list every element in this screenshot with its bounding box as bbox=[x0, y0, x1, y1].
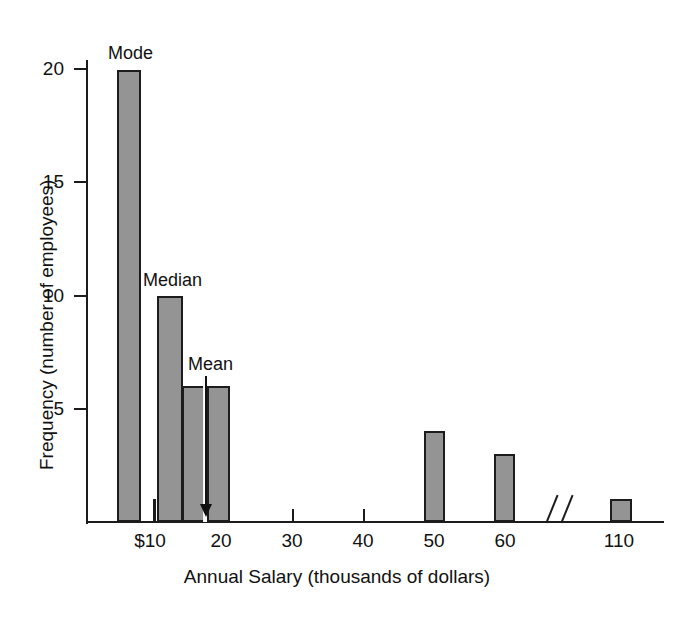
bar-fourth bbox=[207, 386, 230, 522]
x-tick-label-20: 20 bbox=[191, 530, 251, 552]
x-tick-label-40: 40 bbox=[333, 530, 393, 552]
axis-break-slash-2 bbox=[560, 495, 573, 524]
x-tick-label-50: 50 bbox=[404, 530, 464, 552]
y-tick-label-20: 20 bbox=[34, 59, 64, 78]
x-axis-title: Annual Salary (thousands of dollars) bbox=[0, 566, 674, 588]
y-tick-20 bbox=[74, 68, 86, 70]
annotation-median-label: Median bbox=[143, 270, 202, 290]
annotation-mode-label: Mode bbox=[108, 43, 153, 63]
bar-median bbox=[157, 296, 183, 522]
y-axis-title: Frequency (number of employees) bbox=[36, 180, 58, 470]
x-tick-label-10: $10 bbox=[120, 530, 180, 552]
annotation-mean-label: Mean bbox=[188, 354, 233, 374]
x-tick-label-110: 110 bbox=[589, 530, 649, 552]
x-tick-40 bbox=[363, 509, 365, 521]
salary-histogram-figure: 20 15 10 5 $10 20 30 40 50 60 110 Mode M… bbox=[0, 0, 674, 618]
x-tick-30 bbox=[292, 509, 294, 521]
x-tick-label-30: 30 bbox=[262, 530, 322, 552]
y-axis-line bbox=[86, 60, 88, 524]
median-marker bbox=[153, 499, 156, 522]
y-tick-10 bbox=[74, 295, 86, 297]
mean-arrow-head-icon bbox=[200, 504, 212, 517]
y-tick-15 bbox=[74, 181, 86, 183]
bar-sixty bbox=[494, 454, 515, 522]
y-tick-5 bbox=[74, 408, 86, 410]
mean-arrow-stem bbox=[205, 376, 207, 504]
x-tick-label-60: 60 bbox=[475, 530, 535, 552]
bar-onehundredten bbox=[610, 499, 632, 522]
bar-mode bbox=[117, 70, 141, 522]
bar-fifty bbox=[424, 431, 445, 522]
axis-break-slash-1 bbox=[545, 495, 558, 524]
